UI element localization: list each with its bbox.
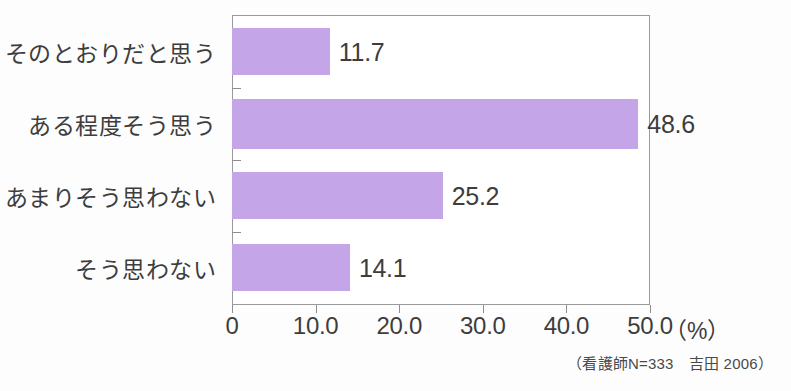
bars-container: 11.7 48.6 25.2 14.1 [232,16,650,304]
bar-row: 25.2 [232,160,650,232]
bar-ある程度そう思う [232,99,638,149]
bar-あまりそう思わない [232,172,443,219]
bar-row: 48.6 [232,88,650,160]
category-label-2: ある程度そう思う [0,88,224,160]
bar-value-label-1: 11.7 [330,38,385,67]
x-axis-unit-label: （%） [664,312,730,346]
bar-value-label-2: 48.6 [638,110,694,139]
bar-value-label-3: 25.2 [443,182,499,211]
x-axis-tick-label-3: 20.0 [376,312,422,340]
category-label-4: そう思わない [0,232,224,304]
category-label-1: そのとおりだと思う [0,16,224,88]
bar-そう思わない [232,244,350,291]
x-axis-tick-label-2: 10.0 [293,312,339,340]
x-axis-tick-label-4: 30.0 [460,312,506,340]
category-axis-labels: そのとおりだと思う ある程度そう思う あまりそう思わない そう思わない [0,16,224,304]
chart-screenshot: そのとおりだと思う ある程度そう思う あまりそう思わない そう思わない 11.7… [0,0,791,391]
source-note: （看護師N=333 吉田 2006） [567,352,773,373]
bar-そのとおりだと思う [232,28,330,75]
bar-row: 11.7 [232,16,650,88]
bar-value-label-4: 14.1 [350,254,406,283]
x-axis-tick-label-5: 40.0 [544,312,590,340]
x-axis-tick-label-1: 0 [225,312,238,340]
category-label-3: あまりそう思わない [0,160,224,232]
bar-row: 14.1 [232,232,650,304]
